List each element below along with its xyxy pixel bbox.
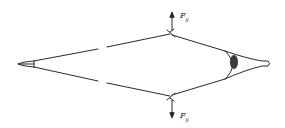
force-subscript: y — [186, 16, 189, 22]
lower-left-arm-a — [34, 67, 98, 81]
knot-mass — [230, 55, 238, 69]
left-tip — [18, 61, 34, 67]
force-diagram — [0, 0, 285, 128]
upper-left-arm-b — [107, 34, 170, 47]
upper-left-arm-a — [34, 49, 98, 61]
lower-left-arm-b — [107, 83, 170, 96]
bottom-force-arrow-head — [170, 113, 174, 118]
upper-right-arm — [172, 35, 225, 51]
top-force-arrow-head — [170, 12, 174, 17]
top-force-label: Fy — [180, 12, 189, 22]
lower-right-arm — [172, 79, 225, 95]
bottom-force-label: Fy — [180, 112, 189, 122]
force-subscript: y — [186, 116, 189, 122]
